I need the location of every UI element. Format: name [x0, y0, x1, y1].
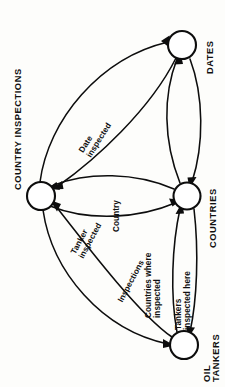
- node-countries[interactable]: [174, 183, 201, 210]
- edge-countries-to-ci-line: [54, 176, 174, 189]
- edge-dates-to-countries-line: [190, 59, 201, 182]
- node-label-country-inspections: COUNTRY INSPECTIONS: [13, 68, 23, 190]
- diagram-canvas: COUNTRY INSPECTIONS DATES COUNTRIES OIL …: [0, 0, 225, 387]
- edge-label-tankers-inspected-here-line2: inspected here: [184, 271, 193, 330]
- edge-label-countries-where-inspected-line2: inspected: [154, 253, 163, 318]
- edge-label-country: Country: [113, 200, 122, 232]
- edge-label-tankers-inspected-here: Tankers inspected here: [175, 271, 192, 330]
- edge-countries-to-dates-line: [167, 59, 180, 183]
- node-dates[interactable]: [168, 31, 196, 59]
- node-country-inspections[interactable]: [27, 182, 55, 210]
- edge-dates-inspections-line: [58, 58, 176, 186]
- node-label-dates: DATES: [205, 40, 215, 74]
- node-label-oil-tankers-line2: TANKERS: [212, 334, 221, 382]
- edge-label-countries-where-inspected: Countries where inspected: [145, 253, 162, 318]
- node-label-countries: COUNTRIES: [208, 188, 218, 248]
- node-oil-tankers[interactable]: [170, 331, 198, 359]
- node-label-oil-tankers: OIL TANKERS: [203, 334, 222, 382]
- edge-date-inspected-line: [40, 42, 168, 182]
